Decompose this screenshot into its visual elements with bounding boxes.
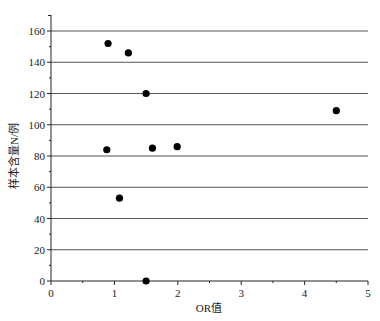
x-tick-label: 1 <box>112 287 118 299</box>
tick-labels: 020406080100120140160012345 <box>29 25 372 299</box>
data-point <box>125 49 132 56</box>
x-tick-label: 4 <box>302 287 308 299</box>
data-points <box>103 40 340 285</box>
y-tick-label: 20 <box>34 244 46 256</box>
x-tick-label: 5 <box>365 287 371 299</box>
data-point <box>143 90 150 97</box>
data-point <box>149 145 156 152</box>
data-point <box>103 146 110 153</box>
y-tick-label: 40 <box>34 213 46 225</box>
y-tick-label: 160 <box>29 25 46 37</box>
y-tick-label: 60 <box>34 181 46 193</box>
y-axis-title: 样本含量N/例 <box>7 123 20 189</box>
data-point <box>143 277 150 284</box>
axes <box>48 15 368 281</box>
x-tick-label: 2 <box>175 287 181 299</box>
y-tick-label: 0 <box>40 275 46 287</box>
y-tick-label: 120 <box>29 88 46 100</box>
data-point <box>104 40 111 47</box>
y-tick-label: 140 <box>29 56 46 68</box>
data-point <box>174 143 181 150</box>
x-tick-label: 3 <box>238 287 244 299</box>
tick-marks <box>47 31 368 285</box>
x-tick-label: 0 <box>48 287 54 299</box>
scatter-chart: 020406080100120140160012345 OR值 样本含量N/例 <box>0 0 380 321</box>
data-point <box>333 107 340 114</box>
y-tick-label: 80 <box>34 150 46 162</box>
data-point <box>116 195 123 202</box>
gridlines <box>51 31 368 250</box>
y-tick-label: 100 <box>29 119 46 131</box>
x-axis-title: OR值 <box>196 302 222 314</box>
